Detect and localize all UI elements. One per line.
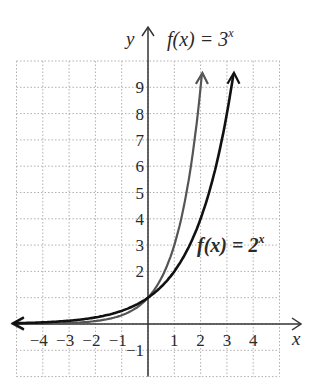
legend-3x: f(x) = 3x (167, 26, 234, 51)
y-tick-label: 2 (136, 262, 145, 281)
y-tick-label: 3 (136, 236, 145, 255)
x-tick-label: −2 (82, 331, 100, 350)
y-tick-label: 4 (136, 210, 145, 229)
y-tick-label: 5 (136, 184, 145, 203)
x-tick-label: 1 (170, 331, 179, 350)
curves (13, 73, 240, 330)
x-tick-label: −3 (56, 331, 74, 350)
y-tick-label: 7 (136, 131, 145, 150)
legend-2x: f(x) = 2x (197, 232, 264, 257)
exponential-graph: −4−3−2−11234−123456789 x y f(x) = 3x f(x… (0, 0, 325, 390)
x-tick-label: 3 (223, 331, 232, 350)
y-tick-label: 6 (136, 157, 145, 176)
x-tick-label: 2 (196, 331, 205, 350)
y-tick-label: −1 (126, 341, 144, 360)
labels: x y f(x) = 3x f(x) = 2x (124, 26, 301, 349)
y-tick-label: 9 (136, 78, 145, 97)
y-tick-label: 8 (136, 105, 145, 124)
curve-3x (14, 74, 202, 324)
x-tick-label: 4 (249, 331, 258, 350)
x-tick-label: −4 (30, 331, 49, 350)
x-axis-label: x (291, 328, 301, 349)
x-tick-label: −1 (109, 331, 127, 350)
y-axis-label: y (124, 28, 135, 49)
